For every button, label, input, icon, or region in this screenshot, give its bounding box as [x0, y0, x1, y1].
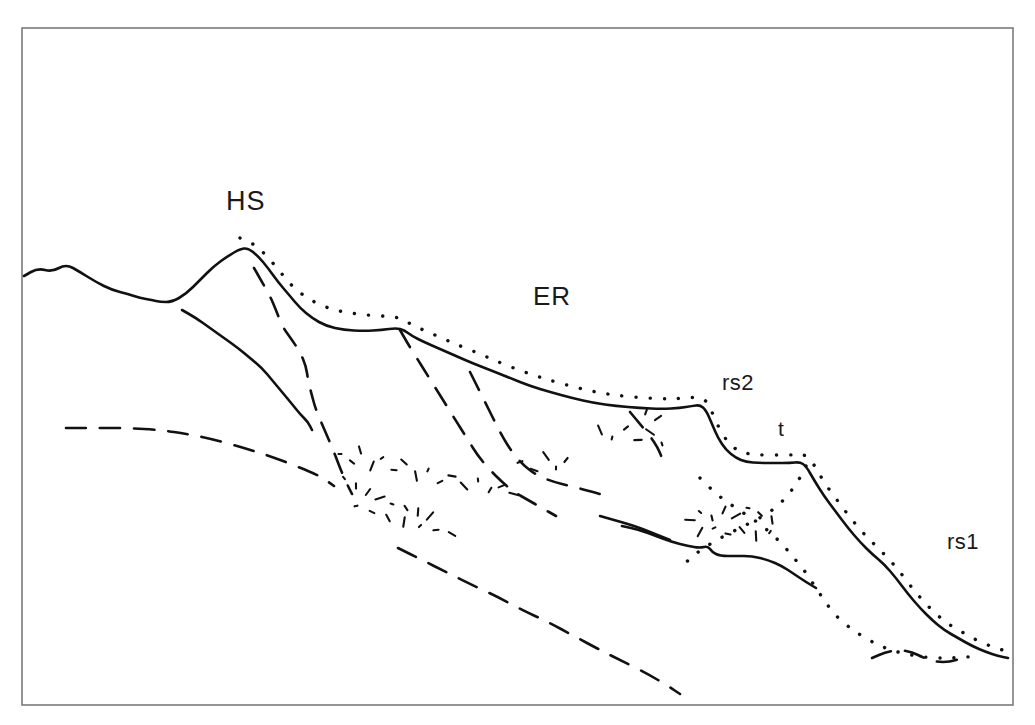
scree-mark — [713, 527, 716, 528]
drawing-background — [0, 0, 1035, 725]
scree-mark — [418, 508, 419, 515]
scree-mark — [343, 477, 345, 479]
scree-mark — [769, 531, 771, 533]
scree-mark — [355, 506, 358, 507]
scree-mark — [433, 530, 438, 531]
scree-mark — [725, 533, 730, 534]
field-sketch-drawing — [0, 0, 1035, 725]
scree-mark — [381, 457, 384, 459]
scree-mark — [685, 520, 695, 521]
label-rs1: rs1 — [947, 529, 979, 555]
scree-mark — [419, 525, 421, 527]
label-rs2: rs2 — [722, 370, 754, 396]
label-er: ER — [533, 281, 571, 312]
scree-mark — [403, 517, 405, 526]
scree-mark — [711, 515, 712, 520]
scree-mark — [391, 503, 394, 504]
label-t: t — [778, 417, 784, 441]
scree-mark — [699, 511, 701, 513]
scree-mark — [756, 531, 757, 541]
scree-mark — [662, 443, 663, 446]
scree-mark — [448, 475, 455, 476]
scree-mark — [427, 469, 428, 472]
scree-mark — [612, 437, 613, 440]
figure-root: HS ER rs2 t rs1 — [0, 0, 1035, 725]
label-hs: HS — [226, 186, 266, 217]
scree-mark — [771, 516, 772, 523]
